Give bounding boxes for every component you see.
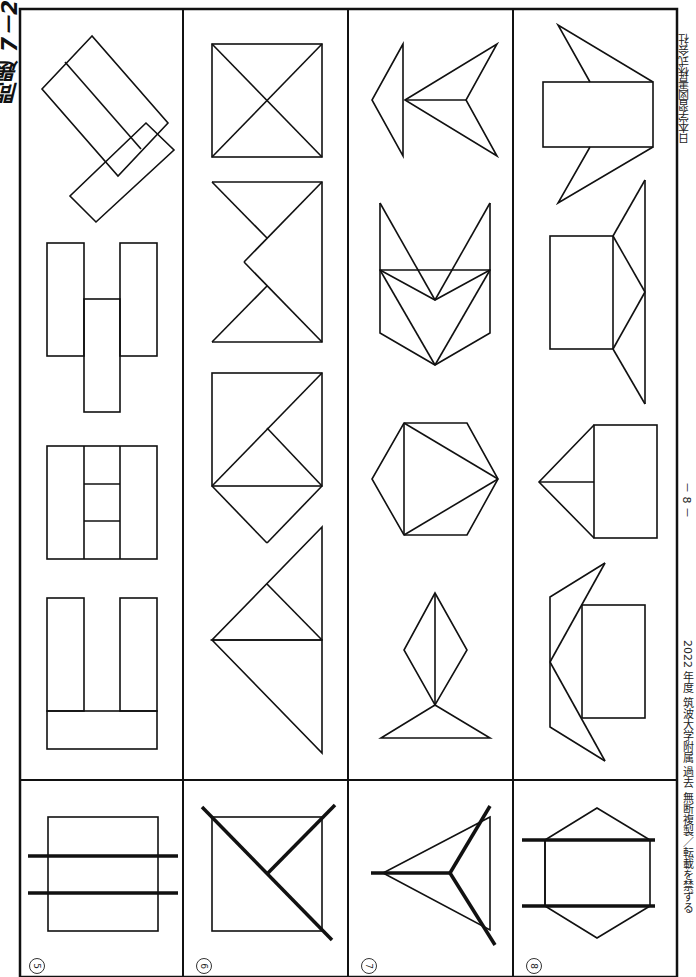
choice-5-3[interactable] <box>47 446 157 559</box>
choice-8-2[interactable] <box>550 180 645 404</box>
choice-5-2[interactable] <box>47 243 157 412</box>
worksheet <box>0 0 696 977</box>
choice-7-1[interactable] <box>372 44 497 156</box>
choice-7-2[interactable] <box>380 203 490 365</box>
example-7 <box>371 806 495 945</box>
problem-8 <box>522 25 657 938</box>
problem-number-8: 8 <box>526 958 542 974</box>
example-5 <box>28 817 178 931</box>
problem-number-7: 7 <box>361 958 377 974</box>
example-6 <box>202 805 335 940</box>
choice-5-1[interactable] <box>42 36 174 222</box>
choice-7-4[interactable] <box>381 593 490 738</box>
problem-7 <box>371 44 498 945</box>
choice-6-3[interactable] <box>212 373 322 543</box>
problem-5 <box>28 36 178 931</box>
choice-5-4[interactable] <box>47 598 157 749</box>
problem-number-5: 5 <box>29 958 45 974</box>
problem-number-6: 6 <box>196 958 212 974</box>
choice-8-1[interactable] <box>543 25 653 203</box>
choice-6-1[interactable] <box>212 44 322 157</box>
choice-7-3[interactable] <box>372 423 498 535</box>
example-8 <box>522 808 655 938</box>
choice-8-3[interactable] <box>539 425 657 538</box>
choice-6-4[interactable] <box>212 527 322 753</box>
choice-6-2[interactable] <box>212 182 322 342</box>
choice-8-4[interactable] <box>550 563 645 761</box>
problem-6 <box>202 44 335 940</box>
